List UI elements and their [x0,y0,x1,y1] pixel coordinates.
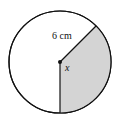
angle-label: x [64,62,70,73]
radius-label: 6 cm [52,30,72,41]
circle-sector-diagram: 6 cm x [0,0,117,119]
center-point [58,60,62,64]
